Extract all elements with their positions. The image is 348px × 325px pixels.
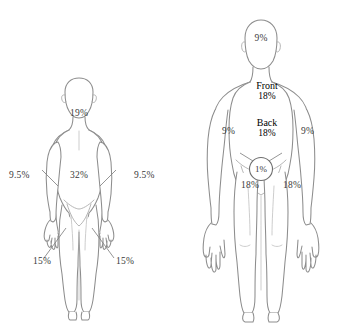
- child-head-label: 19%: [70, 108, 88, 119]
- diagram-canvas: 19% 32% 9.5% 9.5% 15% 15%: [0, 0, 348, 325]
- adult-genitalia-label: 1%: [255, 164, 267, 174]
- adult-arm-left-label: 9%: [222, 126, 235, 137]
- adult-back-value: 18%: [257, 128, 278, 138]
- adult-genitalia-leader-left: [240, 153, 253, 161]
- adult-genitalia-leader-right: [269, 153, 282, 161]
- adult-figure-drawing: [174, 0, 348, 325]
- adult-back-label: Back 18%: [257, 117, 278, 138]
- adult-front-value: 18%: [256, 91, 278, 101]
- adult-arm-right-label: 9%: [301, 126, 314, 137]
- adult-leg-left-label: 18%: [241, 180, 259, 191]
- child-arm-left-label: 9.5%: [9, 170, 30, 181]
- child-arm-right-label: 9.5%: [134, 170, 155, 181]
- adult-head-label: 9%: [254, 33, 267, 44]
- child-figure-drawing: [0, 0, 174, 325]
- adult-front-label: Front 18%: [256, 80, 278, 101]
- child-trunk-label: 32%: [70, 170, 88, 181]
- adult-leg-right-label: 18%: [283, 180, 301, 191]
- adult-back-title: Back: [257, 117, 278, 128]
- adult-front-title: Front: [256, 80, 278, 91]
- child-leg-right-label: 15%: [116, 256, 134, 267]
- child-leg-left-label: 15%: [33, 256, 51, 267]
